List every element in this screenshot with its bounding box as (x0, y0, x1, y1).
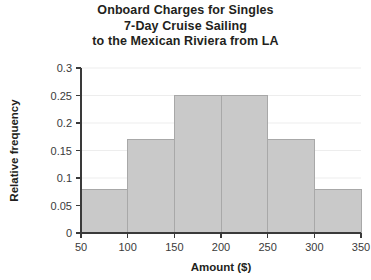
x-tick-label: 150 (165, 241, 183, 253)
y-tick-label: 0.15 (51, 145, 72, 157)
x-tick-label: 50 (75, 241, 87, 253)
x-tick-label: 250 (258, 241, 276, 253)
histogram-bar (268, 140, 315, 234)
x-tick-label: 200 (212, 241, 230, 253)
y-tick-label: 0.1 (57, 172, 72, 184)
x-tick-label: 100 (118, 241, 136, 253)
histogram-bars (81, 96, 361, 234)
x-axis-title: Amount ($) (191, 261, 252, 273)
x-tick-label: 350 (352, 241, 370, 253)
histogram-bar (81, 189, 128, 233)
histogram-bar (174, 96, 221, 234)
y-tick-label: 0.2 (57, 117, 72, 129)
y-tick-label: 0.3 (57, 62, 72, 74)
plot-area: 50100150200250300350 00.050.10.150.20.25… (0, 0, 371, 280)
histogram-bar (314, 189, 361, 233)
histogram-bar (128, 140, 175, 234)
y-tick-label: 0 (66, 227, 72, 239)
y-axis-title: Relative frequency (8, 99, 20, 202)
y-tick-label: 0.25 (51, 90, 72, 102)
y-axis-ticks: 00.050.10.150.20.250.3 (51, 62, 81, 239)
x-axis-ticks: 50100150200250300350 (75, 233, 370, 253)
histogram-bar (221, 96, 268, 234)
y-tick-label: 0.05 (51, 200, 72, 212)
histogram-figure: Onboard Charges for Singles 7-Day Cruise… (0, 0, 371, 280)
x-tick-label: 300 (305, 241, 323, 253)
